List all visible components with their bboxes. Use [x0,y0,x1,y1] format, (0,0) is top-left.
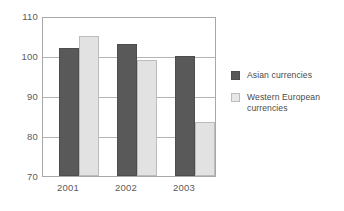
x-tick-label-2002: 2002 [97,182,155,194]
plot-area [42,17,216,177]
legend-label-asian: Asian currencies [247,70,312,81]
x-axis: 2001 2002 2003 [42,182,216,198]
y-tick-label-80: 80 [2,132,38,142]
x-tick-label-2001: 2001 [39,182,97,194]
bar-western-european-2001 [79,36,99,176]
bar-asian-2003 [175,56,195,176]
y-tick-label-90: 90 [2,92,38,102]
legend: Asian currencies Western European curren… [231,70,339,125]
bar-asian-2002 [117,44,137,176]
legend-swatch-icon-asian [231,71,240,80]
y-tick-label-100: 100 [2,52,38,62]
y-tick-label-70: 70 [2,172,38,182]
legend-item-asian-currencies: Asian currencies [231,70,339,81]
bar-western-european-2002 [137,60,157,176]
legend-item-western-european-currencies: Western European currencies [231,92,339,114]
y-axis: 110 100 90 80 70 [0,0,38,211]
y-tick-label-110: 110 [2,12,38,22]
bar-chart-figure: 110 100 90 80 70 2001 2002 2003 Asian cu… [0,0,344,211]
legend-swatch-icon-western-european [231,93,240,102]
x-tick-label-2003: 2003 [155,182,213,194]
bar-western-european-2003 [195,122,215,176]
bar-asian-2001 [59,48,79,176]
legend-label-western-european: Western European currencies [247,92,339,114]
